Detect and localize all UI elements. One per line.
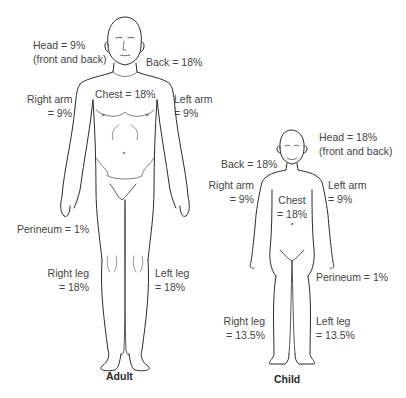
adult-right-arm-label: Right arm = 9% (27, 92, 72, 120)
adult-right-leg-label: Right leg = 18% (44, 266, 89, 294)
child-right-leg-label: Right leg = 13.5% (218, 314, 265, 342)
adult-perineum-label: Perineum = 1% (17, 222, 89, 236)
adult-chest-label: Chest = 18% (95, 87, 155, 101)
adult-left-arm-label: Left arm = 9% (174, 92, 213, 120)
adult-caption: Adult (106, 370, 133, 382)
adult-body-outline (61, 17, 190, 371)
child-left-leg-label: Left leg = 13.5% (316, 314, 355, 342)
child-back-label: Back = 18% (221, 157, 277, 171)
child-perineum-label: Perineum = 1% (316, 270, 388, 284)
child-left-arm-label: Left arm = 9% (328, 178, 367, 206)
child-chest-label: Chest = 18% (277, 193, 307, 221)
child-caption: Child (274, 373, 300, 385)
adult-left-leg-label: Left leg = 18% (155, 266, 189, 294)
adult-back-label: Back = 18% (146, 55, 202, 69)
child-right-arm-label: Right arm = 9% (207, 178, 254, 206)
adult-head-label: Head = 9% (front and back) (33, 38, 107, 66)
child-head-label: Head = 18% (front and back) (319, 130, 393, 158)
